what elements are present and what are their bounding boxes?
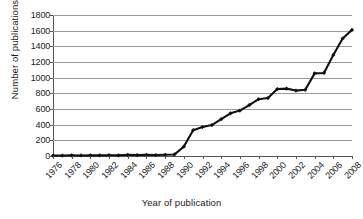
series-line-publications [53, 30, 352, 156]
series-svg [53, 15, 352, 156]
series-marker-group [51, 28, 354, 158]
x-tick-label: 1984 [118, 160, 139, 181]
x-tick-mark [165, 156, 166, 159]
y-tick-label: 1000 [31, 73, 50, 82]
y-tick-label: 200 [36, 136, 50, 145]
x-tick-label: 2004 [305, 160, 326, 181]
y-tick-label: 600 [36, 105, 50, 114]
y-tick-label: 1200 [31, 58, 50, 67]
x-tick-label: 1992 [193, 160, 214, 181]
x-tick-label: 1978 [62, 160, 83, 181]
x-tick-label: 2000 [268, 160, 289, 181]
data-point-marker [284, 87, 288, 91]
y-axis-tick-group: 020040060080010001200140016001800 [0, 15, 50, 156]
x-tick-label: 1988 [156, 160, 177, 181]
x-tick-label: 1998 [249, 160, 270, 181]
x-tick-label: 2002 [286, 160, 307, 181]
y-tick-label: 1400 [31, 42, 50, 51]
x-axis-title: Year of publication [0, 197, 363, 208]
publications-line-chart: 020040060080010001200140016001800 197619… [0, 0, 363, 219]
x-tick-mark [240, 156, 241, 159]
x-tick-label: 1976 [43, 160, 64, 181]
x-tick-mark [352, 156, 353, 159]
y-axis-title: Number of publications [9, 0, 20, 120]
y-tick-label: 800 [36, 89, 50, 98]
y-tick-label: 1600 [31, 26, 50, 35]
x-tick-mark [333, 156, 334, 159]
x-tick-mark [296, 156, 297, 159]
x-tick-mark [259, 156, 260, 159]
x-tick-mark [109, 156, 110, 159]
x-tick-label: 2008 [342, 160, 363, 181]
x-tick-label: 1980 [81, 160, 102, 181]
plot-area [53, 15, 352, 156]
x-tick-mark [72, 156, 73, 159]
x-tick-label: 1986 [137, 160, 158, 181]
x-tick-mark [184, 156, 185, 159]
x-tick-label: 1994 [212, 160, 233, 181]
x-tick-label: 1990 [174, 160, 195, 181]
x-tick-mark [146, 156, 147, 159]
y-tick-label: 400 [36, 120, 50, 129]
x-tick-mark [221, 156, 222, 159]
x-tick-mark [203, 156, 204, 159]
y-tick-label: 1800 [31, 11, 50, 20]
data-point-marker [60, 153, 64, 157]
x-tick-mark [277, 156, 278, 159]
x-tick-label: 2006 [324, 160, 345, 181]
x-tick-label: 1982 [99, 160, 120, 181]
x-tick-mark [315, 156, 316, 159]
x-tick-mark [53, 156, 54, 159]
x-tick-label: 1996 [230, 160, 251, 181]
x-tick-mark [90, 156, 91, 159]
data-point-marker [294, 88, 298, 92]
x-tick-mark [128, 156, 129, 159]
